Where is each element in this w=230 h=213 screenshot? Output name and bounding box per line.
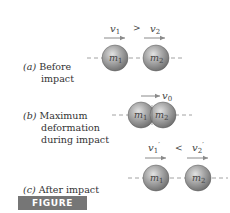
panel-a-relation: > bbox=[133, 23, 141, 33]
panel-c-v2prime-label: v2′ bbox=[192, 141, 204, 155]
collision-diagram: v1 > v2 m1 m2 v0 m1 m2 v1′ < v2′ m1 m2 bbox=[0, 0, 230, 213]
panel-a-v1-label: v1 bbox=[110, 23, 120, 36]
panel-b-v0-label: v0 bbox=[162, 90, 172, 103]
panel-c-v1prime-label: v1′ bbox=[148, 141, 160, 155]
panel-a-v2-label: v2 bbox=[150, 23, 160, 36]
panel-c-relation: < bbox=[175, 143, 183, 153]
panel-c-graphic: v1′ < v2′ m1 m2 bbox=[128, 141, 228, 191]
figure-label: FIGURE 3/17 bbox=[18, 196, 87, 210]
panel-a-graphic: v1 > v2 m1 m2 bbox=[87, 23, 184, 71]
panel-b-graphic: v0 m1 m2 bbox=[112, 90, 192, 128]
